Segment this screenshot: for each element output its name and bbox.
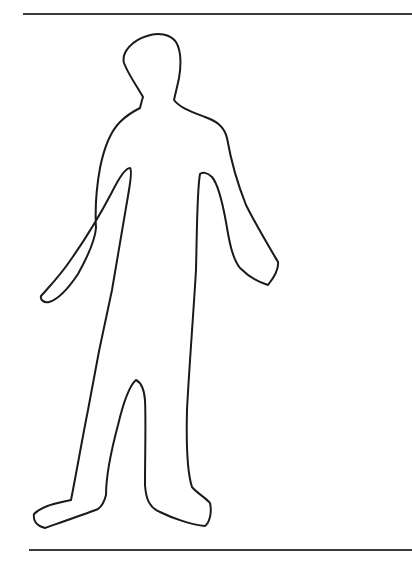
body-outline-canvas xyxy=(0,0,412,561)
body-outline-figure xyxy=(0,0,412,561)
bottom-rule-line xyxy=(29,549,412,551)
body-outline-path xyxy=(34,34,278,528)
